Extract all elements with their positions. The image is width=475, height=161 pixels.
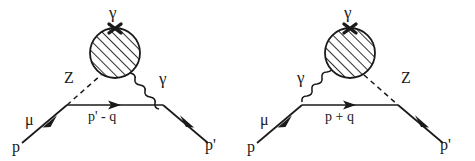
left-photon-wavy-line — [130, 73, 159, 109]
left-incoming-arrow-head — [43, 115, 58, 127]
left-z-boson-label: Z — [64, 70, 74, 86]
right-internal-momentum-label: p + q — [325, 110, 354, 124]
left-outgoing-momentum-label: p' — [205, 137, 216, 153]
right-muon-label: μ — [260, 112, 269, 128]
right-z-boson-label: Z — [401, 70, 411, 86]
right-incoming-arrow-head — [278, 115, 293, 127]
left-external-photon-label: γ — [109, 4, 117, 21]
right-diagram-group — [257, 24, 443, 143]
right-hadronic-blob — [325, 28, 375, 78]
left-diagram-group — [22, 24, 208, 143]
right-external-photon-label: γ — [344, 4, 352, 21]
right-photon-wavy-line — [302, 67, 332, 102]
right-photon-label: γ — [297, 69, 305, 86]
left-photon-label: γ — [159, 70, 167, 87]
right-incoming-momentum-label: p — [247, 139, 255, 155]
left-internal-momentum-label: p' - q — [88, 110, 116, 124]
left-outgoing-fermion-line — [163, 105, 208, 143]
right-outgoing-fermion-line — [398, 105, 443, 143]
left-hadronic-blob — [90, 28, 140, 78]
left-muon-label: μ — [25, 112, 34, 128]
left-incoming-momentum-label: p — [12, 139, 20, 155]
right-outgoing-momentum-label: p' — [440, 137, 451, 153]
right-z-boson-dashed-line — [364, 75, 398, 105]
feynman-diagram-figure: γ Z γ μ p' - q p p' γ γ Z μ p + q p p' — [0, 0, 475, 161]
